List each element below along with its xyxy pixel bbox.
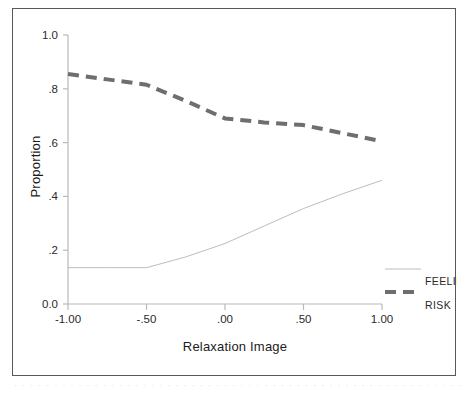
x-tick-label--0.50: -.50: [137, 313, 157, 325]
y-tick-label-0.8: .8: [48, 83, 58, 95]
y-tick-label-0.6: .6: [48, 137, 58, 149]
y-tick-label-0.0: 0.0: [42, 298, 58, 310]
legend-label-feeling: FEELING: [425, 275, 457, 287]
page-bottom-artifact: · · · · · · · · · · · · · · · · · · · · …: [14, 381, 464, 392]
x-axis-ticks: [68, 304, 382, 310]
y-tick-label-0.2: .2: [48, 244, 58, 256]
series-line-feeling: [68, 180, 382, 267]
y-tick-label-0.4: .4: [48, 190, 58, 202]
series-line-risk: [68, 74, 382, 141]
line-chart-plot: 1.0 .8 .6 .4 .2 0.0 -1.00 -.50 .00 .50 1…: [13, 9, 457, 377]
x-tick-label-0.50: .50: [296, 313, 312, 325]
chart-page: 1.0 .8 .6 .4 .2 0.0 -1.00 -.50 .00 .50 1…: [0, 0, 470, 395]
y-axis-title: Proportion: [28, 107, 43, 227]
x-tick-label--1.00: -1.00: [55, 313, 81, 325]
x-tick-label-0.00: .00: [217, 313, 233, 325]
chart-legend: FEELING RISK: [385, 269, 457, 311]
chart-frame: 1.0 .8 .6 .4 .2 0.0 -1.00 -.50 .00 .50 1…: [12, 8, 456, 376]
x-tick-label-1.00: 1.00: [371, 313, 393, 325]
y-axis-ticks: [63, 35, 68, 304]
x-axis-title: Relaxation Image: [13, 339, 457, 354]
y-tick-label-1.0: 1.0: [42, 29, 58, 41]
legend-label-risk: RISK: [425, 299, 451, 311]
